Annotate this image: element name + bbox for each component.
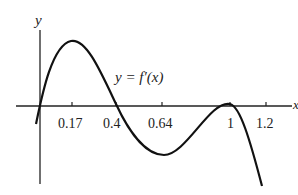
x-axis-label: x: [292, 97, 298, 112]
y-axis-label: y: [33, 12, 42, 28]
derivative-curve: [36, 41, 262, 186]
tick-label-0.64: 0.64: [148, 116, 173, 131]
tick-label-1: 1: [227, 116, 234, 131]
derivative-graph: y x y = f′(x) 0.17 0.4 0.64 1 1.2: [0, 0, 298, 195]
curve-label: y = f′(x): [113, 69, 163, 86]
tick-label-0.17: 0.17: [58, 116, 83, 131]
tick-label-1.2: 1.2: [256, 116, 274, 131]
tick-label-0.4: 0.4: [103, 116, 121, 131]
